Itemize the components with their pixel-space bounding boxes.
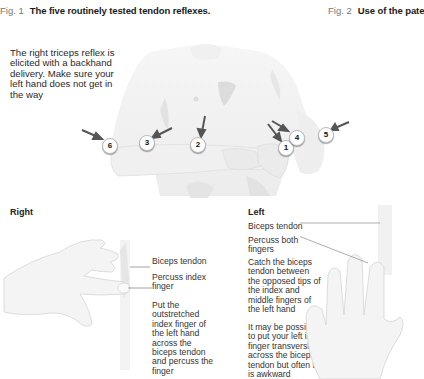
right-panel-heading: Right [10,207,33,217]
text-line: finger [152,367,213,376]
text-line: fingers [248,245,298,254]
reflex-marker-4: 4 [289,130,305,146]
reflex-marker-6: 6 [102,138,118,154]
left-hand-illustration [300,205,417,379]
left-percuss-label: Percuss both fingers [248,236,298,255]
reflex-marker-5: 5 [318,127,334,143]
right-biceps-tendon-label: Biceps tendon [152,257,206,266]
left-panel-heading: Left [248,207,265,217]
right-instruction: Put the outstretched index finger of the… [152,301,213,376]
reflex-marker-3: 3 [139,135,155,151]
text-line: finger [152,282,206,291]
torso-illustration [0,0,417,200]
right-percuss-label: Percuss index finger [152,273,206,292]
right-hand-illustration [0,220,160,370]
left-biceps-tendon-label: Biceps tendon [248,222,302,231]
reflex-marker-2: 2 [190,137,206,153]
